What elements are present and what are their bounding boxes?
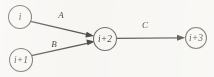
node-i-plus-2[interactable]: i+2 xyxy=(94,28,117,51)
node-i-label: i xyxy=(19,12,22,22)
node-i-plus-3-label: i+3 xyxy=(189,33,203,43)
edge-b-label: B xyxy=(51,39,57,49)
node-i-plus-1-label: i+1 xyxy=(14,55,28,65)
edge-b[interactable]: B xyxy=(31,39,95,56)
edge-a[interactable]: A xyxy=(31,10,95,37)
node-i[interactable]: i xyxy=(9,6,32,29)
node-i-plus-3[interactable]: i+3 xyxy=(186,28,207,49)
edge-c-arrowhead xyxy=(177,35,185,41)
edge-c-label: C xyxy=(142,20,149,30)
edge-c[interactable]: C xyxy=(117,20,186,41)
node-i-plus-1[interactable]: i+1 xyxy=(10,49,33,72)
edge-a-label: A xyxy=(57,10,64,20)
node-i-plus-2-label: i+2 xyxy=(98,34,112,44)
edge-b-line xyxy=(31,43,89,56)
diagram-canvas: A B C i i+1 i+2 xyxy=(0,0,214,77)
edge-a-line xyxy=(31,21,89,35)
diagram-svg: A B C i i+1 i+2 xyxy=(0,0,214,77)
edge-c-line xyxy=(117,38,180,39)
edge-a-arrowhead xyxy=(85,32,94,38)
